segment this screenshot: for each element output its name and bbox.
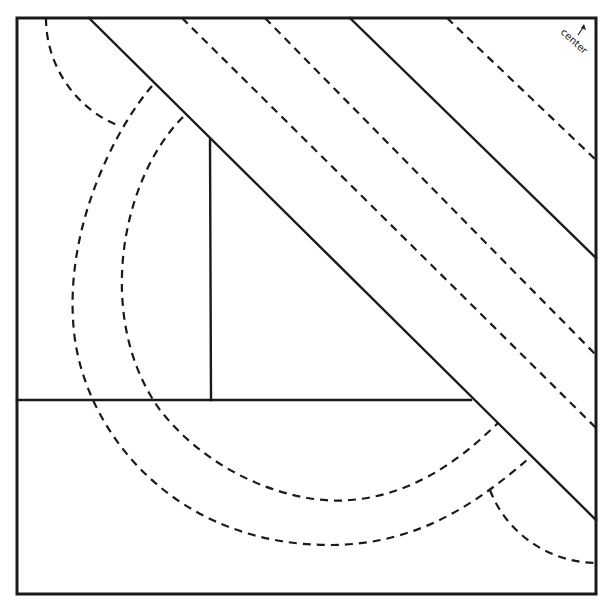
- inner-arc: [122, 117, 498, 501]
- diagonal-seam-2: [265, 18, 596, 355]
- diagonal-seam-1: [182, 18, 596, 428]
- diagonal-band-lower-edge: [89, 18, 596, 520]
- vertical-divider: [210, 140, 211, 400]
- diagonal-band-upper-edge: [350, 18, 596, 258]
- bottom-right-small-arc: [490, 490, 596, 563]
- corner-label: center: [559, 24, 591, 57]
- outer-frame: [17, 18, 596, 594]
- outer-arc: [73, 86, 527, 545]
- pattern-diagram: center: [0, 0, 609, 602]
- center-label: center: [559, 26, 591, 56]
